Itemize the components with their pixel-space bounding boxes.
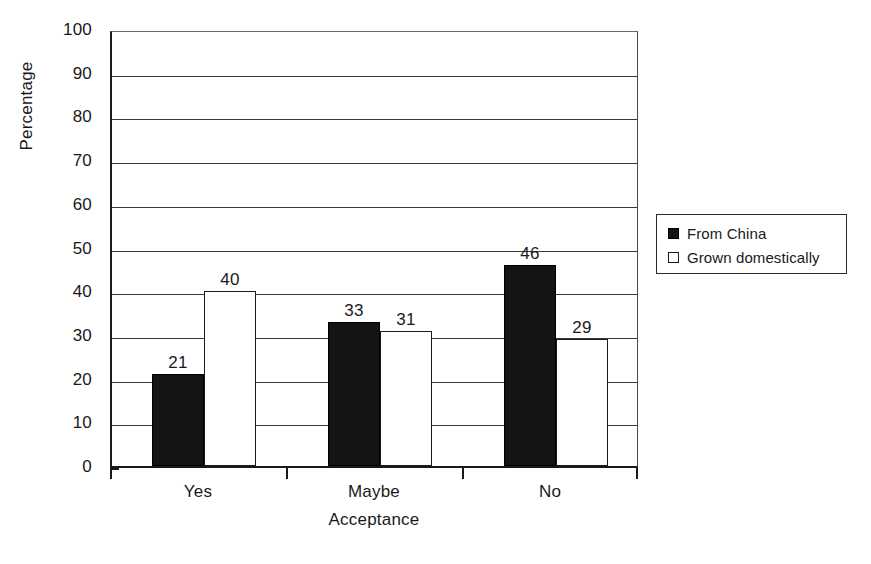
y-axis-ticks: 0102030405060708090100 [0, 31, 110, 468]
bar-value-label: 31 [371, 310, 441, 330]
y-tick-label: 90 [22, 64, 92, 84]
bar-value-label: 46 [495, 244, 565, 264]
bar [504, 265, 556, 466]
gridline [112, 207, 637, 208]
x-tick-mark [462, 468, 464, 479]
x-axis-title: Acceptance [110, 510, 638, 530]
y-tick-label: 10 [22, 413, 92, 433]
bar-chart: Percentage 0102030405060708090100 214033… [0, 0, 871, 564]
x-axis-ticks: YesMaybeNo [110, 468, 638, 514]
y-tick-label: 0 [22, 457, 92, 477]
x-tick-mark [286, 468, 288, 479]
bar-value-label: 40 [195, 270, 265, 290]
y-tick-label: 100 [22, 20, 92, 40]
legend-label: Grown domestically [687, 249, 820, 266]
bar [152, 374, 204, 466]
y-tick-label: 40 [22, 282, 92, 302]
bar [556, 339, 608, 466]
chart-legend: From ChinaGrown domestically [656, 214, 847, 274]
bar [204, 291, 256, 466]
x-tick-mark [110, 468, 112, 479]
bar [380, 331, 432, 466]
y-tick-label: 50 [22, 239, 92, 259]
legend-item: From China [668, 222, 846, 244]
legend-item: Grown domestically [668, 246, 846, 268]
legend-swatch-icon [668, 228, 679, 239]
x-tick-mark [636, 468, 638, 479]
x-tick-label: Yes [110, 482, 286, 502]
plot-area: 214033314629 [110, 31, 638, 468]
gridline [112, 163, 637, 164]
bar-value-label: 29 [547, 318, 617, 338]
gridline [112, 119, 637, 120]
legend-label: From China [687, 225, 766, 242]
x-tick-label: No [462, 482, 638, 502]
bar [328, 322, 380, 466]
x-tick-label: Maybe [286, 482, 462, 502]
bar-value-label: 21 [143, 353, 213, 373]
y-tick-label: 80 [22, 107, 92, 127]
y-tick-label: 20 [22, 370, 92, 390]
y-tick-label: 30 [22, 326, 92, 346]
gridline [112, 294, 637, 295]
y-tick-label: 70 [22, 151, 92, 171]
legend-swatch-icon [668, 252, 679, 263]
gridline [112, 76, 637, 77]
y-tick-label: 60 [22, 195, 92, 215]
